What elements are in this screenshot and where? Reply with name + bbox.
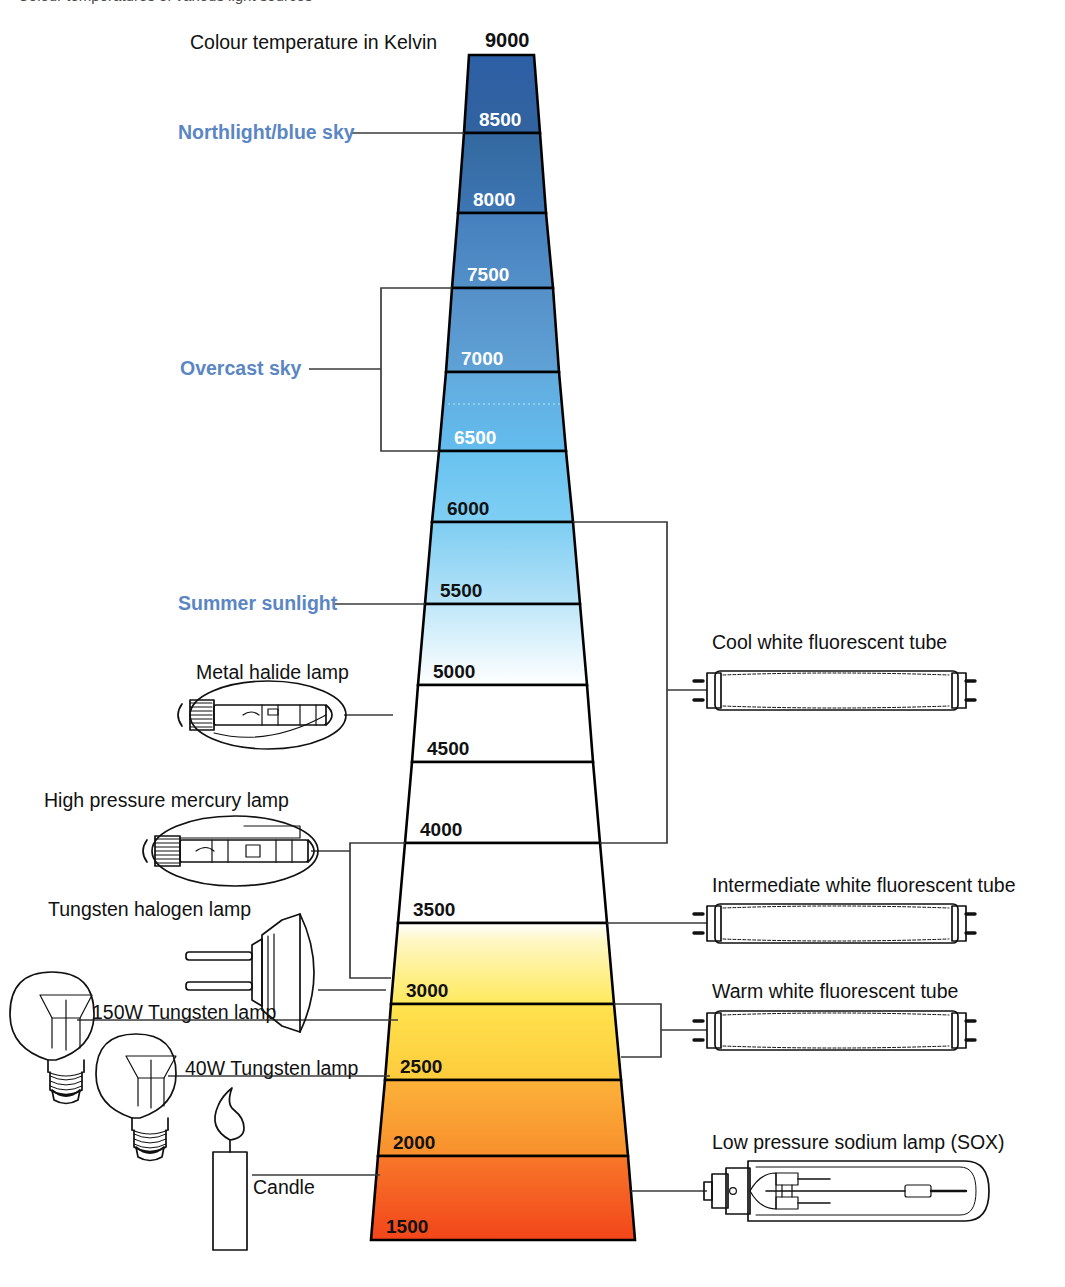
- label-summer-sunlight: Summer sunlight: [178, 594, 337, 614]
- label-overcast-sky: Overcast sky: [180, 359, 301, 379]
- tick-8500: 8500: [479, 110, 521, 129]
- axis-title: Colour temperature in Kelvin: [190, 33, 437, 53]
- tick-7500: 7500: [467, 265, 509, 284]
- tick-3500: 3500: [413, 900, 455, 919]
- label-high-pressure-mercury-lamp: High pressure mercury lamp: [44, 791, 289, 811]
- tick-6500: 6500: [454, 428, 496, 447]
- high-pressure-mercury-lamp-icon: [143, 816, 318, 886]
- label-40w-tungsten-lamp: 40W Tungsten lamp: [185, 1059, 358, 1079]
- label-cool-white-fluorescent-tube: Cool white fluorescent tube: [712, 633, 947, 653]
- cool-white-fluorescent-tube-icon: [694, 671, 975, 710]
- tick-9000: 9000: [485, 30, 530, 50]
- low-pressure-sodium-lamp-icon: [704, 1161, 989, 1221]
- tick-5000: 5000: [433, 662, 475, 681]
- candle-icon: [213, 1088, 247, 1250]
- tick-2500: 2500: [400, 1057, 442, 1076]
- label-tungsten-halogen-lamp: Tungsten halogen lamp: [48, 900, 251, 920]
- tick-1500: 1500: [386, 1217, 428, 1236]
- metal-halide-lamp-icon: [178, 681, 346, 749]
- label-intermediate-white-fluorescent-tube: Intermediate white fluorescent tube: [712, 876, 1016, 896]
- tick-3000: 3000: [406, 981, 448, 1000]
- label-metal-halide-lamp: Metal halide lamp: [196, 663, 349, 683]
- label-warm-white-fluorescent-tube: Warm white fluorescent tube: [712, 982, 958, 1002]
- bracket-warm-white: [614, 1004, 661, 1057]
- tick-8000: 8000: [473, 190, 515, 209]
- colour-temperature-diagram: Colour temperatures of various light sou…: [0, 0, 1065, 1287]
- tick-7000: 7000: [461, 349, 503, 368]
- tick-4500: 4500: [427, 739, 469, 758]
- label-150w-tungsten-lamp: 150W Tungsten lamp: [92, 1003, 276, 1023]
- tick-2000: 2000: [393, 1133, 435, 1152]
- label-low-pressure-sodium-lamp: Low pressure sodium lamp (SOX): [712, 1133, 1005, 1153]
- tungsten-lamp-40w-icon: [96, 1034, 176, 1161]
- tick-6000: 6000: [447, 499, 489, 518]
- label-northlight-blue-sky: Northlight/blue sky: [178, 123, 355, 143]
- tick-5500: 5500: [440, 581, 482, 600]
- label-candle: Candle: [253, 1178, 315, 1198]
- warm-white-fluorescent-tube-icon: [694, 1011, 975, 1050]
- intermediate-white-fluorescent-tube-icon: [694, 904, 975, 943]
- tick-4000: 4000: [420, 820, 462, 839]
- tungsten-lamp-150w-icon: [10, 972, 94, 1104]
